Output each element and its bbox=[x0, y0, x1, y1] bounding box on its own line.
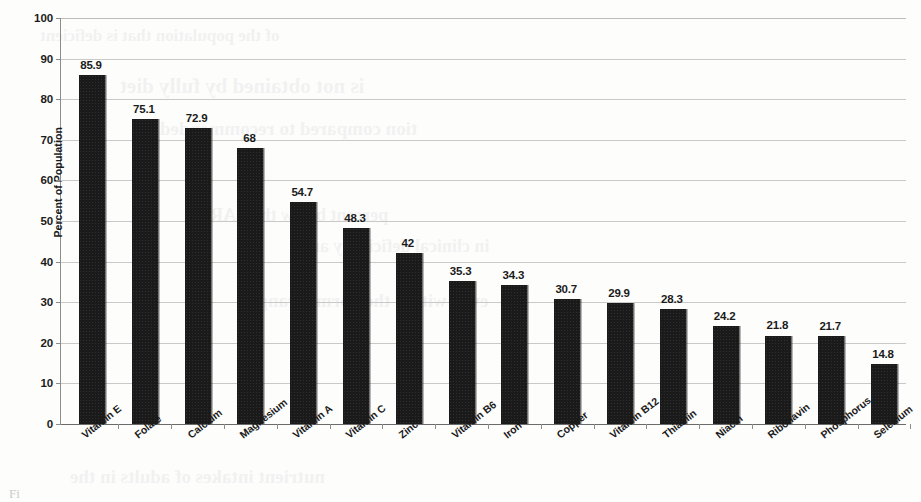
gridline-100 bbox=[61, 18, 906, 19]
x-tick bbox=[224, 424, 225, 429]
y-tick bbox=[56, 221, 61, 222]
x-tick bbox=[594, 424, 595, 429]
x-tick bbox=[435, 424, 436, 429]
bar-value-label: 14.8 bbox=[861, 348, 905, 360]
bar-vitamin-a[interactable] bbox=[290, 202, 316, 424]
y-tick-label-80: 80 bbox=[40, 93, 53, 105]
bar-value-label: 34.3 bbox=[491, 269, 535, 281]
bar-copper[interactable] bbox=[554, 299, 580, 424]
caption-stub: Fi bbox=[9, 486, 20, 502]
x-tick bbox=[910, 424, 911, 429]
bar-niacin[interactable] bbox=[713, 326, 739, 424]
y-tick bbox=[56, 59, 61, 60]
x-tick bbox=[330, 424, 331, 429]
x-tick bbox=[382, 424, 383, 429]
bar-value-label: 85.9 bbox=[69, 59, 113, 71]
bar-value-label: 75.1 bbox=[122, 103, 166, 115]
chart-page: of the population that is deficient is n… bbox=[0, 0, 921, 502]
bar-riboflavin[interactable] bbox=[765, 336, 791, 425]
bar-calcium[interactable] bbox=[185, 128, 211, 424]
x-tick bbox=[488, 424, 489, 429]
y-tick-label-30: 30 bbox=[40, 296, 53, 308]
y-tick bbox=[56, 383, 61, 384]
y-tick bbox=[56, 180, 61, 181]
y-tick-label-100: 100 bbox=[34, 12, 53, 24]
gridline-90 bbox=[61, 59, 906, 60]
bar-thiamin[interactable] bbox=[660, 309, 686, 424]
gridline-80 bbox=[61, 99, 906, 100]
bar-value-label: 54.7 bbox=[280, 186, 324, 198]
bar-value-label: 35.3 bbox=[439, 265, 483, 277]
bar-phosphorus[interactable] bbox=[818, 336, 844, 424]
bar-vitamin-c[interactable] bbox=[343, 228, 369, 424]
x-tick bbox=[805, 424, 806, 429]
x-tick bbox=[118, 424, 119, 429]
bar-zinc[interactable] bbox=[396, 253, 422, 424]
plot-area: Percent of Population bbox=[60, 18, 906, 424]
bar-value-label: 29.9 bbox=[597, 287, 641, 299]
bar-value-label: 21.7 bbox=[808, 320, 852, 332]
y-tick-label-40: 40 bbox=[40, 256, 53, 268]
y-tick-label-10: 10 bbox=[40, 377, 53, 389]
y-tick bbox=[56, 302, 61, 303]
y-tick bbox=[56, 99, 61, 100]
y-tick bbox=[56, 140, 61, 141]
y-tick-label-90: 90 bbox=[40, 53, 53, 65]
y-tick bbox=[56, 343, 61, 344]
x-tick bbox=[646, 424, 647, 429]
bar-value-label: 72.9 bbox=[175, 112, 219, 124]
x-tick bbox=[858, 424, 859, 429]
y-tick-label-0: 0 bbox=[47, 418, 53, 430]
y-tick-label-20: 20 bbox=[40, 337, 53, 349]
bar-value-label: 28.3 bbox=[650, 293, 694, 305]
bar-magnesium[interactable] bbox=[237, 148, 263, 424]
bar-vitamin-b6[interactable] bbox=[449, 281, 475, 424]
x-tick bbox=[171, 424, 172, 429]
bar-value-label: 48.3 bbox=[333, 212, 377, 224]
y-tick bbox=[56, 18, 61, 19]
x-tick bbox=[752, 424, 753, 429]
x-tick bbox=[699, 424, 700, 429]
bleed-line: nutrient intakes of adults in the bbox=[70, 466, 325, 488]
bar-value-label: 42 bbox=[386, 237, 430, 249]
bar-value-label: 24.2 bbox=[703, 310, 747, 322]
bar-value-label: 68 bbox=[227, 132, 271, 144]
x-tick bbox=[277, 424, 278, 429]
x-tick bbox=[541, 424, 542, 429]
bar-value-label: 30.7 bbox=[544, 283, 588, 295]
y-tick bbox=[56, 262, 61, 263]
bar-folate[interactable] bbox=[132, 119, 158, 424]
bar-vitamin-b12[interactable] bbox=[607, 303, 633, 424]
bar-iron[interactable] bbox=[501, 285, 527, 424]
bar-value-label: 21.8 bbox=[755, 319, 799, 331]
bar-vitamin-e[interactable] bbox=[79, 75, 105, 424]
